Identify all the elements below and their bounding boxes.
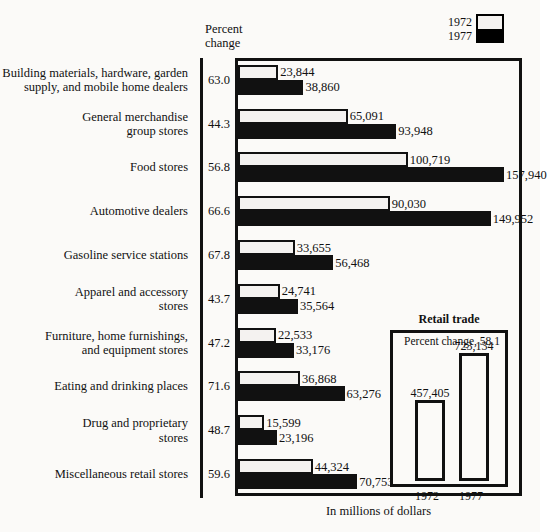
bar-1977: 149,952 [238,211,491,226]
bar-1972: 90,030 [238,196,390,211]
bar-1972: 100,719 [238,152,408,167]
bar-value-label: 23,196 [279,430,313,445]
percent-change-value: 43.7 [208,291,230,306]
percent-change-value: 63.0 [208,72,230,87]
category-label: Apparel and accessory stores [0,284,188,313]
bar-1972: 23,844 [238,65,278,80]
bar-value-label: 65,091 [350,109,384,124]
bar-row: Gasoline service stations67.833,65556,46… [0,233,540,277]
bar-1972: 24,741 [238,284,280,299]
inset-bar-1977: 723,134 [459,353,489,481]
inset-bar-value-1972: 457,405 [411,386,450,401]
percent-change-header: Percent change [205,22,275,50]
inset-axis-label-1977: 1977 [451,489,491,504]
bar-row: Food stores56.8100,719157,940 [0,146,540,190]
bar-value-label: 24,741 [282,284,316,299]
bar-1977: 63,276 [238,386,345,401]
bar-pair: 33,65556,468 [238,240,522,270]
category-label: Automotive dealers [0,204,188,219]
bar-value-label: 33,655 [297,240,331,255]
bar-value-label: 44,324 [315,459,349,474]
category-label: Building materials, hardware, garden sup… [0,65,188,94]
bar-value-label: 36,868 [302,371,336,386]
percent-change-value: 47.2 [208,335,230,350]
bar-value-label: 149,952 [493,211,534,226]
bar-value-label: 56,468 [335,255,369,270]
bar-row: Automotive dealers66.690,030149,952 [0,189,540,233]
bar-1972: 15,599 [238,415,264,430]
legend-swatch-1977 [478,29,502,42]
legend-labels: 1972 1977 [448,15,472,43]
bar-value-label: 157,940 [506,167,547,182]
bar-1977: 33,176 [238,343,294,358]
percent-change-value: 59.6 [208,467,230,482]
inset-axis-label-1972: 1972 [407,489,447,504]
bar-1972: 22,533 [238,328,276,343]
bar-pair: 23,84438,860 [238,65,522,95]
percent-change-value: 67.8 [208,248,230,263]
bar-1972: 33,655 [238,240,295,255]
inset-box: Percent change, 58.1 457,405 723,134 [390,330,508,487]
legend-swatch [476,14,504,43]
bar-value-label: 23,844 [280,65,314,80]
bar-1972: 44,324 [238,459,313,474]
bar-1977: 93,948 [238,124,396,139]
category-label: Food stores [0,160,188,175]
bar-value-label: 22,533 [278,328,312,343]
bar-1977: 157,940 [238,167,504,182]
bar-value-label: 70,753 [359,474,393,489]
category-label: Drug and proprietary stores [0,416,188,445]
bar-1977: 38,860 [238,80,303,95]
category-label: General merchandise group stores [0,109,188,138]
percent-change-value: 44.3 [208,116,230,131]
percent-change-header-line2: change [205,36,275,50]
bar-value-label: 93,948 [398,124,432,139]
inset-title: Retail trade [390,312,508,327]
bar-value-label: 33,176 [296,343,330,358]
category-label: Miscellaneous retail stores [0,467,188,482]
bar-pair: 65,09193,948 [238,109,522,139]
percent-change-value: 48.7 [208,423,230,438]
percent-change-value: 56.8 [208,160,230,175]
inset-bar-value-1977: 723,134 [455,339,494,354]
inset-bar-1972: 457,405 [415,400,445,481]
bar-value-label: 100,719 [410,152,451,167]
bar-value-label: 90,030 [392,196,426,211]
bar-value-label: 63,276 [347,386,381,401]
bar-1972: 65,091 [238,109,348,124]
percent-change-value: 66.6 [208,204,230,219]
x-axis-caption: In millions of dollars [235,504,522,519]
retail-trade-inset: Retail trade Percent change, 58.1 457,40… [390,330,508,487]
category-label: Eating and drinking places [0,379,188,394]
bar-pair: 24,74135,564 [238,284,522,314]
bar-value-label: 35,564 [300,299,334,314]
category-label: Gasoline service stations [0,248,188,263]
category-label: Furniture, home furnishings, and equipme… [0,328,188,357]
legend-label-1977: 1977 [448,29,472,43]
bar-row: Building materials, hardware, garden sup… [0,58,540,102]
bar-pair: 90,030149,952 [238,196,522,226]
legend: 1972 1977 [448,14,504,43]
bar-1977: 35,564 [238,299,298,314]
bar-row: General merchandise group stores44.365,0… [0,102,540,146]
percent-change-header-line1: Percent [205,22,275,36]
bar-1977: 23,196 [238,430,277,445]
legend-label-1972: 1972 [448,15,472,29]
bar-pair: 100,719157,940 [238,152,522,182]
bar-value-label: 38,860 [305,80,339,95]
legend-swatch-1972 [478,16,502,29]
bar-1977: 56,468 [238,255,333,270]
bar-1972: 36,868 [238,371,300,386]
percent-change-value: 71.6 [208,379,230,394]
bar-1977: 70,753 [238,474,357,489]
bar-value-label: 15,599 [266,415,300,430]
